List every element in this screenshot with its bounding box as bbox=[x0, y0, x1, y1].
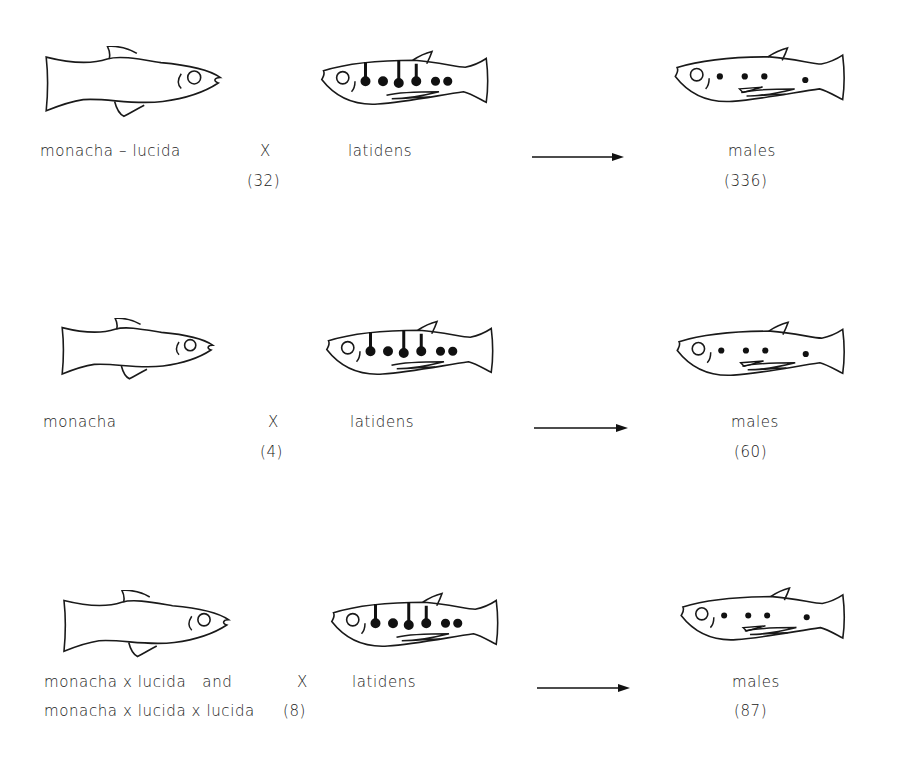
female-parent-label: monacha x lucida and bbox=[44, 673, 232, 691]
female-parent-label: monacha bbox=[43, 413, 117, 431]
offspring-label: males bbox=[728, 142, 776, 160]
male-parent-fish-barred-icon bbox=[315, 48, 493, 118]
offspring-fish-spotted-icon bbox=[672, 318, 848, 390]
offspring-label: males bbox=[731, 413, 779, 431]
offspring-count: (87) bbox=[734, 702, 767, 720]
cross-symbol: X bbox=[297, 673, 308, 691]
female-fish-icon bbox=[55, 318, 223, 382]
female-parent-label-line2: monacha x lucida x lucida bbox=[44, 702, 255, 720]
male-parent-label: latidens bbox=[350, 413, 414, 431]
arrow-icon bbox=[537, 677, 630, 685]
offspring-count: (336) bbox=[724, 172, 767, 190]
offspring-label: males bbox=[732, 673, 780, 691]
cross-count: (32) bbox=[247, 172, 280, 190]
female-parent-label: monacha – lucida bbox=[40, 142, 181, 160]
offspring-count: (60) bbox=[734, 443, 767, 461]
cross-count: (4) bbox=[260, 443, 283, 461]
offspring-fish-spotted-icon bbox=[670, 44, 848, 116]
cross-symbol: X bbox=[260, 142, 271, 160]
female-fish-icon bbox=[40, 46, 230, 120]
male-parent-fish-barred-icon bbox=[325, 590, 503, 660]
offspring-fish-spotted-icon bbox=[676, 584, 848, 654]
cross-count: (8) bbox=[283, 702, 306, 720]
male-parent-fish-barred-icon bbox=[320, 318, 498, 388]
female-fish-icon bbox=[55, 590, 241, 660]
arrow-icon bbox=[534, 417, 628, 425]
cross-symbol: X bbox=[268, 413, 279, 431]
male-parent-label: latidens bbox=[352, 673, 416, 691]
male-parent-label: latidens bbox=[348, 142, 412, 160]
arrow-icon bbox=[532, 146, 624, 154]
